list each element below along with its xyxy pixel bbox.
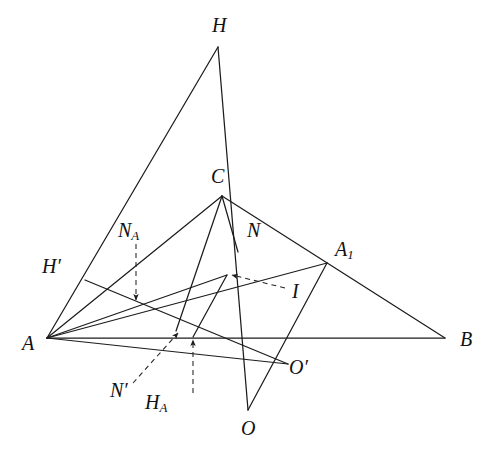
line-C-to-Np: [176, 196, 222, 331]
point-label-C: C: [211, 165, 225, 187]
segments-layer: [47, 47, 445, 410]
geometry-canvas: HCNA1NAH′IABO′N′HAO: [0, 0, 490, 451]
line-H-to-O: [218, 47, 248, 410]
altitude-A-to-H: [47, 47, 218, 338]
leader-arrows-layer: [133, 244, 285, 393]
line-A1-to-O: [248, 263, 327, 410]
point-label-Hp: H′: [41, 255, 61, 277]
arrow-Np: [133, 333, 178, 383]
point-labels-layer: HCNA1NAH′IABO′N′HAO: [20, 14, 472, 439]
point-label-O: O: [241, 417, 255, 439]
point-label-Np: N′: [109, 379, 128, 401]
line-I-to-HA: [193, 275, 227, 337]
point-label-A: A: [20, 332, 35, 354]
line-A-to-Op: [47, 338, 288, 364]
side-CA: [47, 196, 222, 338]
geometry-figure: HCNA1NAH′IABO′N′HAO: [0, 0, 490, 451]
line-I-to-A: [47, 275, 227, 338]
point-label-B: B: [460, 328, 472, 350]
point-label-HA: HA: [144, 391, 167, 415]
point-label-H: H: [211, 14, 228, 36]
side-CB: [222, 196, 445, 338]
line-Hp-to-Op: [85, 280, 288, 364]
point-label-I: I: [291, 280, 300, 302]
point-label-A1: A1: [333, 238, 354, 262]
point-label-NA: NA: [117, 219, 139, 243]
point-label-Op: O′: [289, 356, 308, 378]
point-label-N: N: [246, 219, 262, 241]
